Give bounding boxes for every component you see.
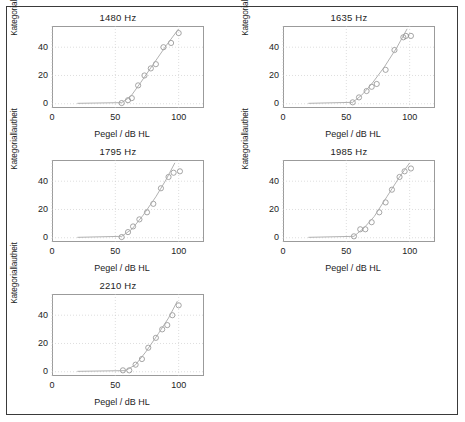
plot-canvas	[283, 26, 435, 108]
y-tick-label: 20	[28, 205, 48, 214]
x-tick-label: 50	[103, 113, 127, 122]
x-axis-label: Pegel / dB HL	[42, 129, 202, 139]
panel-title: 1795 Hz	[12, 146, 224, 157]
y-tick-label: 20	[259, 205, 279, 214]
y-axis-label: Kategoriallautheit	[241, 0, 253, 48]
fit-curve	[77, 163, 175, 238]
y-tick-label: 40	[259, 43, 279, 52]
panel-1985hz: 1985 Hz Kategoriallautheit Pegel / dB HL…	[243, 146, 455, 278]
x-axis-label: Pegel / dB HL	[42, 263, 202, 273]
data-point-marker	[171, 170, 176, 175]
x-axis-label: Pegel / dB HL	[42, 397, 202, 407]
data-point-marker	[363, 227, 368, 232]
x-axis-label: Pegel / dB HL	[273, 129, 433, 139]
x-tick-label: 100	[167, 247, 191, 256]
x-tick-label: 0	[40, 113, 64, 122]
panel-title: 1985 Hz	[243, 146, 455, 157]
panel-title: 2210 Hz	[12, 280, 224, 291]
y-tick-label: 0	[259, 99, 279, 108]
plot-canvas	[52, 160, 204, 242]
plot-canvas	[52, 26, 204, 108]
y-tick-label: 0	[259, 233, 279, 242]
panel-2210hz: 2210 Hz Kategoriallautheit Pegel / dB HL…	[12, 280, 224, 412]
plot-canvas	[283, 160, 435, 242]
fit-curve	[77, 301, 177, 371]
x-tick-label: 100	[398, 247, 422, 256]
fit-curve	[308, 29, 407, 104]
y-tick-label: 0	[28, 367, 48, 376]
x-tick-label: 50	[103, 381, 127, 390]
x-tick-label: 100	[167, 113, 191, 122]
y-axis-label: Kategoriallautheit	[10, 230, 22, 316]
x-tick-label: 0	[40, 247, 64, 256]
panel-1480hz: 1480 Hz Kategoriallautheit Pegel / dB HL…	[12, 12, 224, 144]
data-point-marker	[369, 84, 374, 89]
data-point-marker	[374, 81, 379, 86]
y-tick-label: 40	[28, 311, 48, 320]
y-tick-label: 0	[28, 99, 48, 108]
y-tick-label: 0	[28, 233, 48, 242]
y-axis-label: Kategoriallautheit	[241, 96, 253, 182]
x-axis-label: Pegel / dB HL	[273, 263, 433, 273]
x-tick-label: 100	[398, 113, 422, 122]
fit-curve	[308, 163, 409, 238]
panel-title: 1480 Hz	[12, 12, 224, 23]
x-tick-label: 0	[271, 113, 295, 122]
x-tick-label: 100	[167, 381, 191, 390]
fit-curve	[77, 29, 178, 104]
x-tick-label: 0	[271, 247, 295, 256]
data-point-marker	[369, 220, 374, 225]
x-tick-label: 50	[334, 247, 358, 256]
y-tick-label: 20	[28, 71, 48, 80]
x-tick-label: 0	[40, 381, 64, 390]
y-tick-label: 40	[28, 43, 48, 52]
panel-1635hz: 1635 Hz Kategoriallautheit Pegel / dB HL…	[243, 12, 455, 144]
data-point-marker	[377, 210, 382, 215]
data-point-marker	[408, 166, 413, 171]
panel-title: 1635 Hz	[243, 12, 455, 23]
x-tick-label: 50	[334, 113, 358, 122]
data-point-marker	[177, 169, 182, 174]
x-tick-label: 50	[103, 247, 127, 256]
y-tick-label: 40	[259, 177, 279, 186]
y-axis-label: Kategoriallautheit	[10, 96, 22, 182]
panel-1795hz: 1795 Hz Kategoriallautheit Pegel / dB HL…	[12, 146, 224, 278]
plot-canvas	[52, 294, 204, 376]
y-axis-label: Kategoriallautheit	[10, 0, 22, 48]
y-tick-label: 20	[259, 71, 279, 80]
y-tick-label: 20	[28, 339, 48, 348]
figure-frame: 1480 Hz Kategoriallautheit Pegel / dB HL…	[0, 0, 465, 422]
y-tick-label: 40	[28, 177, 48, 186]
data-point-marker	[408, 33, 413, 38]
